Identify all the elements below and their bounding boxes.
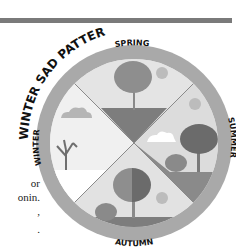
spring-tree-icon: [114, 61, 152, 93]
sun-icon: [156, 67, 168, 79]
bush-icon: [95, 203, 117, 221]
seasonal-wheel-diagram: WINTER SAD PATTERN SPRING SUMMER AUTUMN …: [0, 0, 236, 247]
sun-icon: [189, 98, 201, 110]
sun-icon: [156, 192, 168, 204]
bush-icon: [165, 154, 187, 172]
summer-tree-icon: [180, 124, 218, 154]
